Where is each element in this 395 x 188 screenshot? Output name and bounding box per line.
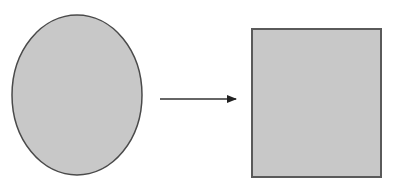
source-ellipse [12,15,142,175]
target-rectangle [252,29,381,177]
diagram-canvas [0,0,395,188]
